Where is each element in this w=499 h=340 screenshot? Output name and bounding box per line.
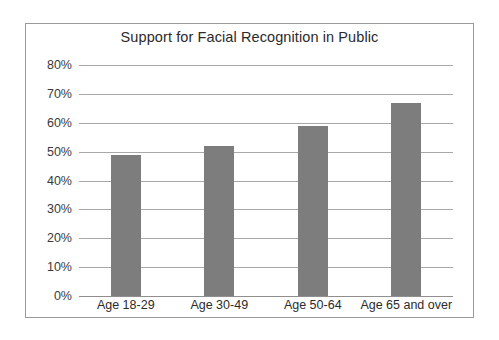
bar — [391, 103, 421, 296]
bar — [298, 126, 328, 296]
axis-baseline — [79, 296, 453, 297]
x-axis-tick-label: Age 65 and over — [360, 298, 452, 312]
y-axis-tick-label: 60% — [47, 116, 72, 130]
x-axis-labels: Age 18-29Age 30-49Age 50-64Age 65 and ov… — [79, 298, 453, 316]
y-axis-tick-label: 20% — [47, 231, 72, 245]
plot-area: 0%10%20%30%40%50%60%70%80% — [79, 65, 453, 296]
y-axis-tick-label: 80% — [47, 58, 72, 72]
y-axis-tick-label: 0% — [54, 289, 72, 303]
y-axis-tick-label: 30% — [47, 202, 72, 216]
bar — [204, 146, 234, 296]
chart-card: Support for Facial Recognition in Public… — [25, 23, 474, 318]
x-axis-tick-label: Age 18-29 — [97, 298, 155, 312]
y-axis-tick-label: 10% — [47, 260, 72, 274]
chart-title: Support for Facial Recognition in Public — [26, 29, 473, 45]
bar — [111, 155, 141, 296]
y-axis-tick-label: 50% — [47, 145, 72, 159]
y-axis-tick-label: 40% — [47, 174, 72, 188]
x-axis-tick-label: Age 30-49 — [190, 298, 248, 312]
y-axis-tick-label: 70% — [47, 87, 72, 101]
x-axis-tick-label: Age 50-64 — [284, 298, 342, 312]
bar-series — [79, 65, 453, 296]
